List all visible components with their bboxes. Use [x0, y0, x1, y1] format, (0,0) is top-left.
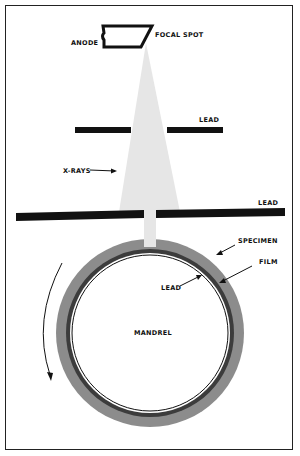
label-film: FILM: [259, 258, 278, 266]
label-lead-lower: LEAD: [258, 199, 278, 207]
lead-plate-upper-right: [167, 127, 223, 133]
label-lead-upper: LEAD: [199, 116, 219, 124]
diagram-graphic: [0, 0, 300, 456]
label-lead-inner: LEAD: [161, 284, 181, 292]
label-specimen: SPECIMEN: [238, 237, 278, 245]
label-xrays: X-RAYS: [63, 167, 91, 175]
lead-plate-upper-left: [75, 127, 131, 133]
label-focal-spot: FOCAL SPOT: [155, 31, 204, 39]
lead-plate-lower-left: [16, 210, 144, 221]
label-anode: ANODE: [71, 39, 98, 47]
anode-icon: [103, 26, 153, 47]
label-mandrel: MANDREL: [134, 329, 172, 337]
